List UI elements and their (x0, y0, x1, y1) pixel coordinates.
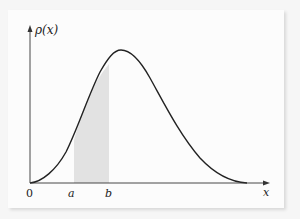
y-axis-arrow-icon (28, 25, 33, 32)
y-axis-label: ρ(x) (34, 23, 59, 37)
origin-label: 0 (26, 187, 33, 200)
tick-label-b: b (105, 187, 112, 200)
x-axis-arrow-icon (263, 181, 270, 186)
shaded-area-a-to-b (74, 64, 109, 183)
tick-label-a: a (68, 187, 75, 200)
density-curve (30, 50, 247, 183)
density-plot: ρ(x) x 0 a b (0, 0, 300, 219)
x-axis-label: x (263, 186, 270, 199)
